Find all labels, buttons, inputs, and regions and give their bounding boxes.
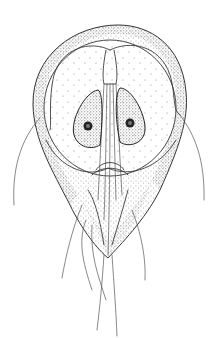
organism-illustration [0, 0, 211, 338]
